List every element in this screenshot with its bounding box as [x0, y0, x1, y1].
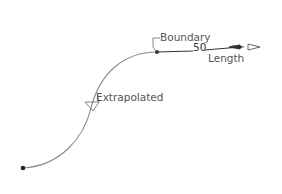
- boundary-leader: [153, 38, 160, 52]
- original-curve[interactable]: [23, 52, 157, 168]
- end-point[interactable]: [238, 45, 241, 48]
- length-label: Length: [208, 52, 244, 64]
- length-value-label[interactable]: 50: [193, 41, 206, 53]
- start-point[interactable]: [21, 166, 26, 171]
- extrapolated-label: Extrapolated: [96, 91, 163, 103]
- length-manipulator-arrow-icon[interactable]: [229, 45, 244, 49]
- diagram-canvas: Boundary 50 Length Extrapolated: [0, 0, 282, 194]
- direction-open-arrow-icon[interactable]: [248, 44, 260, 50]
